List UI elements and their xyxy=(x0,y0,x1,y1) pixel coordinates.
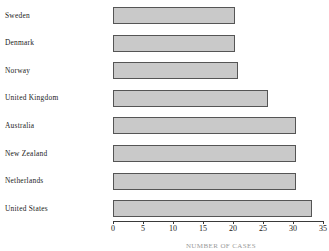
category-label: United States xyxy=(5,205,48,212)
bar-chart: SwedenDenmarkNorwayUnited KingdomAustral… xyxy=(0,0,329,251)
bar xyxy=(113,90,268,107)
bar xyxy=(113,7,235,24)
bar xyxy=(113,200,312,217)
x-axis-tick-label: 25 xyxy=(259,225,267,233)
bar xyxy=(113,62,238,79)
category-label: United Kingdom xyxy=(5,94,58,101)
x-axis-tick-label: 5 xyxy=(141,225,145,233)
x-axis-tick-label: 0 xyxy=(111,225,115,233)
x-axis-tick-label: 35 xyxy=(319,225,327,233)
category-label: Sweden xyxy=(5,12,30,19)
category-label: Australia xyxy=(5,122,34,129)
bar xyxy=(113,35,235,52)
x-axis-tick-label: 15 xyxy=(199,225,207,233)
x-axis-tick-label: 10 xyxy=(169,225,177,233)
category-label: Netherlands xyxy=(5,177,43,184)
bar xyxy=(113,117,296,134)
chart-caption: NUMBER OF CASES xyxy=(113,243,329,250)
category-label-column: SwedenDenmarkNorwayUnited KingdomAustral… xyxy=(0,0,110,222)
x-axis-tick-label: 30 xyxy=(289,225,297,233)
bar xyxy=(113,145,296,162)
x-axis-tick-label: 20 xyxy=(229,225,237,233)
category-label: Denmark xyxy=(5,39,34,46)
category-label: New Zealand xyxy=(5,150,47,157)
category-label: Norway xyxy=(5,67,30,74)
x-axis-line xyxy=(113,221,323,222)
plot-area xyxy=(113,0,329,222)
bar xyxy=(113,173,296,190)
